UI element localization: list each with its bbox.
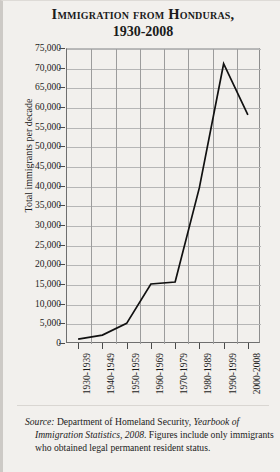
y-axis-tick-label: 60,000 — [1, 102, 61, 112]
y-axis-tick-label: 45,000 — [1, 161, 61, 171]
y-axis-tick-label: 15,000 — [1, 279, 61, 289]
source-label: Source: — [25, 416, 54, 427]
y-axis-tick-label: 0 — [1, 338, 61, 348]
x-axis-tick-mark — [175, 343, 176, 349]
chart-title-line-1: Immigration from Honduras, — [3, 6, 280, 23]
y-axis-tick-label: 10,000 — [1, 299, 61, 309]
y-axis-tick-mark — [59, 205, 65, 206]
y-axis-tick-mark — [59, 284, 65, 285]
x-axis-tick-mark — [78, 343, 79, 349]
chart-area: Total immigrants per decade 75,00070,000… — [3, 42, 280, 342]
y-axis-tick-mark — [59, 343, 65, 344]
y-axis-tick-mark — [59, 186, 65, 187]
y-axis-tick-mark — [59, 48, 65, 49]
y-axis-tick-mark — [59, 107, 65, 108]
y-axis-tick-mark — [59, 264, 65, 265]
source-note: Source: Department of Homeland Security,… — [25, 415, 279, 454]
x-axis-tick-mark — [151, 343, 152, 349]
y-axis-tick-mark — [59, 146, 65, 147]
y-axis-tick-label: 70,000 — [1, 63, 61, 73]
y-axis-tick-label: 30,000 — [1, 220, 61, 230]
x-axis-tick-mark — [102, 343, 103, 349]
source-text-part-1: Department of Homeland Security, — [54, 416, 193, 427]
y-axis-tick-mark — [59, 127, 65, 128]
y-axis-tick-mark — [59, 87, 65, 88]
x-axis-tick-mark — [248, 343, 249, 349]
y-axis-tick-mark — [59, 245, 65, 246]
y-axis-tick-mark — [59, 304, 65, 305]
y-axis-tick-label: 75,000 — [1, 43, 61, 53]
y-axis-tick-label: 5,000 — [1, 318, 61, 328]
figure-page: Immigration from Honduras, 1930-2008 Tot… — [0, 0, 280, 472]
y-axis-tick-mark — [59, 323, 65, 324]
y-axis-tick-label: 35,000 — [1, 200, 61, 210]
x-axis-tick-mark — [127, 343, 128, 349]
y-axis-tick-label: 65,000 — [1, 82, 61, 92]
y-axis-tick-label: 50,000 — [1, 141, 61, 151]
y-axis-tick-label: 25,000 — [1, 240, 61, 250]
chart-title: Immigration from Honduras, 1930-2008 — [3, 6, 280, 40]
y-axis-tick-mark — [59, 166, 65, 167]
x-axis-tick-mark — [224, 343, 225, 349]
y-axis-tick-mark — [59, 68, 65, 69]
data-series-line — [66, 48, 260, 343]
y-axis-tick-label: 40,000 — [1, 181, 61, 191]
chart-title-line-2: 1930-2008 — [3, 23, 280, 40]
x-axis-tick-mark — [199, 343, 200, 349]
y-axis-title: Total immigrants per decade — [23, 71, 34, 241]
y-axis-tick-label: 20,000 — [1, 259, 61, 269]
y-axis-tick-label: 55,000 — [1, 122, 61, 132]
source-divider — [17, 405, 269, 406]
y-axis-tick-mark — [59, 225, 65, 226]
